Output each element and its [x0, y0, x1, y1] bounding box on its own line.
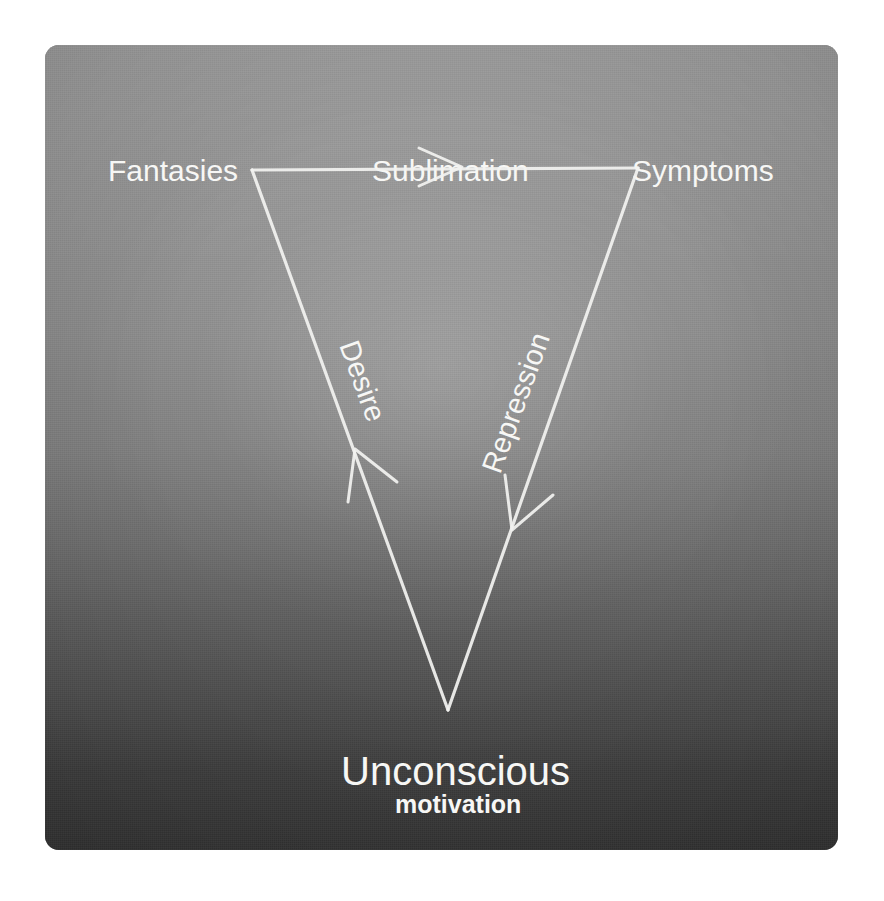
slide-panel: Fantasies Sublimation Symptoms Desire Re… [45, 45, 838, 850]
edge-right-repression [448, 168, 638, 710]
label-motivation: motivation [395, 790, 521, 818]
edge-left-desire [252, 170, 448, 710]
label-desire: Desire [333, 336, 392, 426]
label-symptoms: Symptoms [632, 154, 774, 187]
triangle-diagram: Fantasies Sublimation Symptoms Desire Re… [45, 45, 838, 850]
label-unconscious: Unconscious [341, 749, 570, 793]
edge-top-sublimation [252, 168, 638, 170]
arrowhead-desire [348, 449, 397, 502]
label-repression: Repression [476, 328, 556, 477]
screenshot-stage: Fantasies Sublimation Symptoms Desire Re… [0, 0, 884, 901]
label-fantasies: Fantasies [108, 154, 238, 187]
